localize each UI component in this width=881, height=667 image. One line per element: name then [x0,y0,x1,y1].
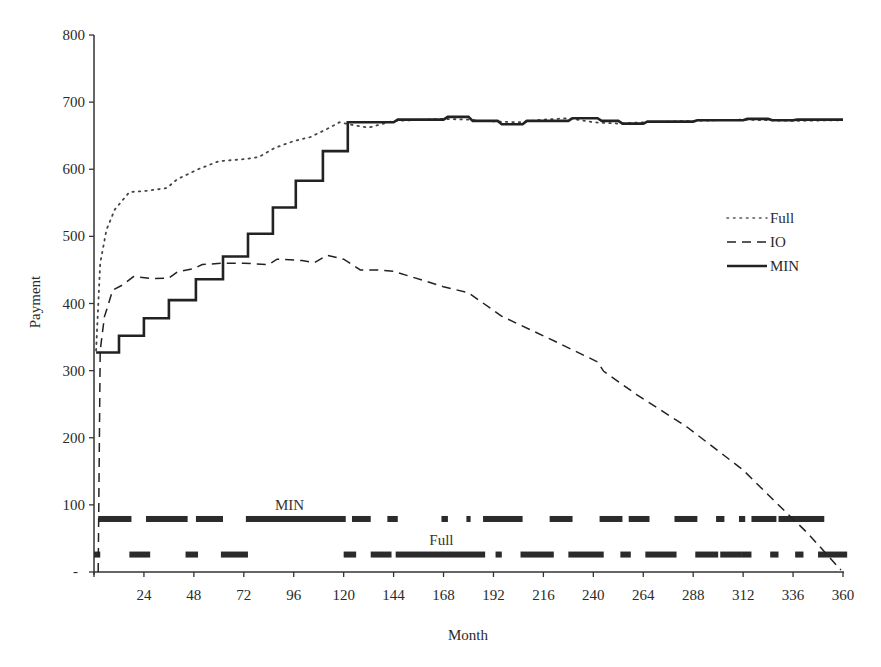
series-lines [96,117,843,572]
x-tick-label: 240 [582,587,605,603]
regime-bar-segment [720,552,741,558]
series-line-min [96,117,843,353]
legend-item-io: IO [727,234,786,250]
legend: FullIOMIN [727,210,799,274]
y-tick-label: 600 [63,161,86,177]
x-tick-label: 336 [782,587,805,603]
regime-bar-segment [620,552,630,558]
regime-bar-segment [716,516,724,522]
regime-bar-segment [94,552,100,558]
regime-bar-segment [344,552,356,558]
regime-bar-segment [246,516,346,522]
regime-bar-segment [196,516,223,522]
legend-label: IO [770,234,786,250]
legend-item-full: Full [727,210,794,226]
y-zero-label: - [73,563,78,579]
regime-bar-segment [568,552,603,558]
legend-item-min: MIN [727,258,799,274]
regime-bar-segment [396,552,485,558]
regime-bar-segment [550,516,573,522]
series-line-io [98,255,841,572]
legend-label: MIN [770,258,799,274]
x-tick-label: 72 [236,587,251,603]
y-tick-label: 300 [63,363,86,379]
regime-bars [94,516,847,558]
y-tick-label: 400 [63,296,86,312]
regime-bar-segment [371,552,392,558]
regime-bar-segment [98,516,131,522]
x-tick-label: 216 [532,587,555,603]
y-tick-label: 800 [63,27,86,43]
y-tick-label: 200 [63,430,86,446]
x-tick-label: 96 [286,587,302,603]
legend-label: Full [770,210,794,226]
y-axis: 100200300400500600700800- [63,27,95,579]
y-tick-label: 700 [63,94,86,110]
regime-bar-segment [129,552,150,558]
regime-bar-segment [352,516,371,522]
regime-bar-segment [770,552,778,558]
x-axis: 2448729612014416819221624026428831233636… [94,572,854,603]
x-tick-label: 24 [136,587,152,603]
regime-bar-min [98,516,824,522]
regime-bar-segment [695,552,718,558]
y-tick-label: 500 [63,228,86,244]
x-tick-label: 312 [732,587,755,603]
regime-bar-segment [645,552,676,558]
regime-bar-segment [483,516,523,522]
regime-bar-segment [496,552,502,558]
regime-bar-segment [521,552,554,558]
annotation-full: Full [429,532,453,548]
annotation-min: MIN [275,497,304,513]
x-tick-label: 192 [482,587,505,603]
regime-bar-segment [674,516,697,522]
x-tick-label: 144 [382,587,405,603]
regime-bar-segment [751,516,776,522]
regime-bar-segment [739,516,745,522]
x-tick-label: 288 [682,587,705,603]
regime-bar-segment [629,516,650,522]
x-tick-label: 168 [432,587,455,603]
regime-bar-segment [779,516,825,522]
series-line-full [96,118,843,350]
regime-bar-segment [444,516,448,522]
x-tick-label: 48 [186,587,201,603]
regime-bar-segment [387,516,397,522]
regime-bar-segment [186,552,198,558]
regime-bar-segment [741,552,751,558]
regime-bar-segment [221,552,248,558]
x-tick-label: 264 [632,587,655,603]
regime-bar-segment [466,516,470,522]
regime-bar-segment [600,516,623,522]
y-axis-title: Payment [27,275,43,328]
regime-bar-segment [818,552,847,558]
x-tick-label: 120 [332,587,355,603]
payment-line-chart: 100200300400500600700800- 24487296120144… [0,0,881,667]
annotations: MINFull [275,497,454,549]
regime-bar-full [94,552,847,558]
regime-bar-segment [795,552,803,558]
x-tick-label: 360 [832,587,855,603]
y-tick-label: 100 [63,497,86,513]
regime-bar-segment [146,516,188,522]
x-axis-title: Month [448,627,489,643]
